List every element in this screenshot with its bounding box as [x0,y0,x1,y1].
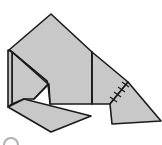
folded-paper-diagram [0,0,162,145]
partial-circle-marker [4,138,18,145]
left-strip [8,50,12,107]
fold-line-inner-vertical [49,84,50,104]
